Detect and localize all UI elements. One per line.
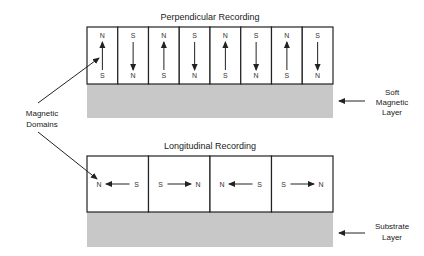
recording-diagram: Perpendicular Recording NSSNNSSNNSSNNSSN…: [0, 0, 424, 256]
longitudinal-domain-cell: SN: [149, 156, 211, 212]
pole-label-bottom: S: [223, 72, 228, 79]
pole-label-bottom: N: [131, 72, 136, 79]
domains-label-line2: Domains: [26, 120, 58, 129]
pole-label-top: N: [284, 32, 289, 39]
perpendicular-domain-cell: SN: [179, 27, 210, 84]
perpendicular-domain-cell: SN: [302, 27, 333, 84]
pole-label-right: S: [257, 181, 262, 188]
longitudinal-title: Longitudinal Recording: [164, 141, 256, 151]
perpendicular-title: Perpendicular Recording: [160, 12, 259, 22]
perpendicular-domains: NSSNNSSNNSSNNSSN: [87, 27, 333, 84]
pole-label-bottom: N: [254, 72, 259, 79]
soft-layer-label-line1: Soft: [385, 88, 400, 97]
pole-label-left: S: [281, 181, 286, 188]
pole-label-bottom: S: [162, 72, 167, 79]
soft-layer-label-line3: Layer: [382, 108, 402, 117]
pole-label-bottom: N: [192, 72, 197, 79]
pole-label-bottom: N: [315, 72, 320, 79]
longitudinal-domain-cell: NS: [87, 156, 149, 212]
longitudinal-domains: NSSNNSSN: [87, 156, 333, 212]
domains-label-line1: Magnetic: [26, 109, 58, 118]
pole-label-top: N: [100, 32, 105, 39]
pole-label-top: N: [161, 32, 166, 39]
pole-label-top: S: [254, 32, 259, 39]
longitudinal-domain-cell: SN: [272, 156, 334, 212]
substrate-layer: [87, 212, 333, 247]
pole-label-left: N: [219, 181, 224, 188]
soft-magnetic-layer: [87, 84, 333, 118]
substrate-label-line1: Substrate: [375, 222, 410, 231]
pole-label-top: N: [223, 32, 228, 39]
pole-label-left: S: [158, 181, 163, 188]
pole-label-top: S: [192, 32, 197, 39]
pole-label-right: N: [195, 181, 200, 188]
perpendicular-domain-cell: SN: [241, 27, 272, 84]
perpendicular-domain-cell: NS: [87, 27, 118, 84]
pole-label-top: S: [315, 32, 320, 39]
pole-label-bottom: S: [100, 72, 105, 79]
perpendicular-domain-cell: NS: [272, 27, 303, 84]
longitudinal-domain-cell: NS: [210, 156, 272, 212]
perpendicular-domain-cell: NS: [149, 27, 180, 84]
pole-label-right: N: [318, 181, 323, 188]
pole-label-right: S: [134, 181, 139, 188]
pole-label-bottom: S: [285, 72, 290, 79]
substrate-label-line2: Layer: [382, 233, 402, 242]
soft-layer-label-line2: Magnetic: [376, 98, 408, 107]
pole-label-left: N: [96, 181, 101, 188]
pole-label-top: S: [131, 32, 136, 39]
perpendicular-domain-cell: SN: [118, 27, 149, 84]
perpendicular-domain-cell: NS: [210, 27, 241, 84]
